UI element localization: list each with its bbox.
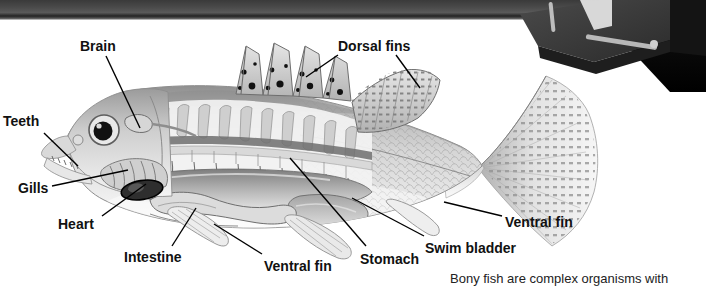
- label-brain: Brain: [80, 38, 116, 54]
- leader-ventral-fin-left: [214, 224, 262, 254]
- leader-swim-bladder: [352, 198, 424, 236]
- leader-intestine: [172, 208, 196, 246]
- label-ventral-fin-right: Ventral fin: [505, 214, 573, 230]
- label-stomach: Stomach: [360, 251, 419, 267]
- leader-heart: [102, 184, 146, 216]
- label-heart: Heart: [58, 216, 94, 232]
- label-ventral-fin-left: Ventral fin: [264, 258, 332, 274]
- label-gills: Gills: [18, 180, 48, 196]
- leader-ventral-fin-right: [444, 202, 502, 216]
- label-teeth: Teeth: [3, 113, 39, 129]
- dark-3d-object: [520, 0, 706, 92]
- label-swim-bladder: Swim bladder: [425, 240, 516, 256]
- figure-caption: Bony fish are complex organisms with: [450, 271, 668, 286]
- label-intestine: Intestine: [124, 249, 182, 265]
- label-dorsal-fins: Dorsal fins: [338, 38, 410, 54]
- pin-head: [650, 40, 658, 48]
- figure-canvas: Brain Dorsal fins Teeth Gills Heart Inte…: [0, 0, 706, 292]
- leader-gills: [52, 170, 128, 186]
- leader-dorsal-fins: [306, 55, 420, 88]
- leader-stomach: [290, 158, 366, 246]
- leader-brain: [106, 56, 140, 128]
- leader-teeth: [44, 133, 78, 166]
